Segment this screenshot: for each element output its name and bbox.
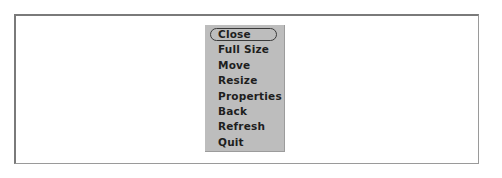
- menu-item-move[interactable]: Move: [205, 58, 284, 73]
- menu-item-refresh[interactable]: Refresh: [205, 119, 284, 134]
- menu-item-close[interactable]: Close: [205, 27, 284, 42]
- menu-item-quit[interactable]: Quit: [205, 135, 284, 150]
- context-menu: Close Full Size Move Resize Properties B…: [205, 25, 285, 152]
- menu-item-properties[interactable]: Properties: [205, 89, 284, 104]
- menu-item-resize[interactable]: Resize: [205, 73, 284, 88]
- menu-item-back[interactable]: Back: [205, 104, 284, 119]
- menu-item-full-size[interactable]: Full Size: [205, 42, 284, 57]
